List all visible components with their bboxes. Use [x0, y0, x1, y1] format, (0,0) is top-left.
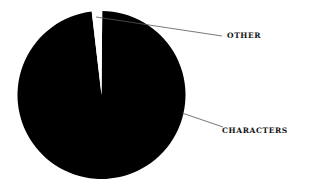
leader-line-characters — [182, 113, 223, 127]
pie-chart: OTHER CHARACTERS — [0, 0, 309, 190]
label-other: OTHER — [227, 31, 261, 40]
label-characters: CHARACTERS — [222, 126, 288, 135]
pie-slices — [18, 11, 186, 179]
